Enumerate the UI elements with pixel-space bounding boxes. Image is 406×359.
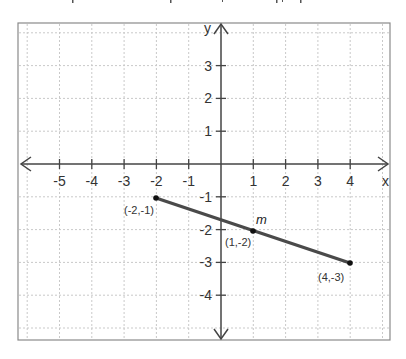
x-tick-label: 4 [346,173,354,189]
x-tick-label: -5 [53,173,66,189]
x-axis-label: x [382,173,389,189]
endpoint-dot-start [153,195,159,201]
x-tick-label: -1 [182,173,195,189]
x-tick-label: -2 [150,173,163,189]
y-axis-label: y [204,20,211,36]
y-tick-label: -2 [200,222,213,238]
y-tick-label: -1 [200,189,213,205]
coordinate-plane: -5-4-3-2-11234 321-1-2-3-4 x y (-2,-1) (… [0,0,406,359]
y-tick-label: 2 [204,90,212,106]
y-tick-label: 1 [204,123,212,139]
x-tick-label: -3 [118,173,131,189]
x-tick-label: 2 [282,173,290,189]
y-tick-label: -3 [200,254,213,270]
point-label-start: (-2,-1) [124,204,154,216]
endpoint-dot-end [347,260,353,266]
clipped-caption-fragments [72,0,302,3]
x-tick-label: 1 [249,173,257,189]
point-label-end: (4,-3) [318,271,344,283]
segment-name-label: m [256,212,267,227]
y-tick-label: -4 [200,287,213,303]
x-tick-label: -4 [86,173,99,189]
y-tick-label: 3 [204,58,212,74]
x-tick-label: 3 [314,173,322,189]
point-label-midpoint: (1,-2) [225,236,251,248]
midpoint-dot [250,228,256,234]
